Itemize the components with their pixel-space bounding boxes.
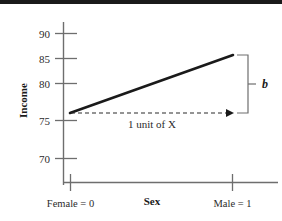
- rise-brace-annotation: [237, 55, 256, 113]
- y-tick-label-80: 80: [39, 78, 51, 90]
- y-tick-label-85: 85: [39, 53, 51, 65]
- x-tick-label-male: Male = 1: [214, 198, 252, 209]
- y-axis-tick-labels: 90 85 80 75 70: [39, 28, 51, 165]
- y-tick-label-75: 75: [39, 115, 51, 127]
- x-axis-title: Sex: [144, 195, 161, 207]
- run-arrowhead-icon: [226, 109, 234, 117]
- run-annotation-label: 1 unit of X: [128, 118, 176, 130]
- y-tick-label-90: 90: [39, 28, 51, 40]
- y-axis-ticks: [55, 34, 77, 159]
- x-tick-label-female: Female = 0: [47, 198, 94, 209]
- y-axis-title: Income: [17, 83, 29, 118]
- coefficient-label: b: [262, 77, 268, 91]
- run-arrow-annotation: [71, 109, 234, 117]
- y-tick-label-70: 70: [39, 153, 51, 165]
- chart-figure: 90 85 80 75 70 Income Female = 0 Male = …: [0, 0, 282, 221]
- rise-brace-path: [237, 55, 248, 113]
- regression-line: [70, 55, 233, 113]
- regression-plot: 90 85 80 75 70 Income Female = 0 Male = …: [0, 0, 282, 221]
